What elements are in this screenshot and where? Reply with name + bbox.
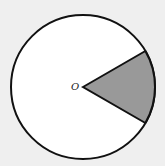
circle-diagram (0, 0, 165, 166)
center-label-o: O (71, 82, 79, 92)
